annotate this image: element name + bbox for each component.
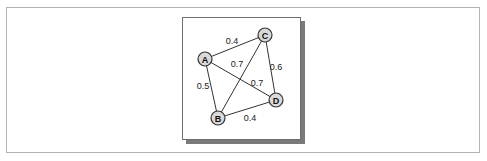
edge-weight-label: 0.5	[197, 81, 210, 91]
node-label: C	[262, 31, 269, 41]
node-c: C	[258, 28, 272, 42]
edge-weight-label: 0.6	[270, 62, 283, 72]
edges-group	[205, 35, 276, 118]
node-label: B	[215, 114, 222, 124]
node-label: A	[202, 55, 209, 65]
edge-weight-label: 0.7	[231, 59, 244, 69]
edge-weight-label: 0.7	[251, 78, 264, 88]
nodes-group: ABCD	[198, 28, 283, 125]
node-a: A	[198, 52, 212, 66]
edge-weight-label: 0.4	[226, 36, 239, 46]
graph-diagram: 0.40.50.70.70.60.4 ABCD	[0, 0, 487, 161]
node-label: D	[273, 96, 280, 106]
edge-weight-label: 0.4	[244, 113, 257, 123]
node-b: B	[211, 111, 225, 125]
node-d: D	[269, 93, 283, 107]
